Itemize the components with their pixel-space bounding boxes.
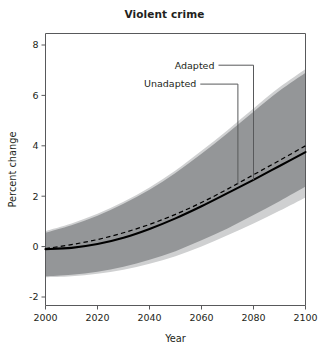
x-tick-label: 2000 — [33, 312, 57, 323]
chart-canvas: -202468200020202040206020802100 AdaptedU… — [0, 0, 329, 353]
y-tick-label: 6 — [32, 90, 38, 101]
annotation-label-unadapted: Unadapted — [144, 78, 196, 89]
y-tick-label: 4 — [32, 140, 38, 151]
y-tick-label: 2 — [32, 191, 38, 202]
y-tick-label: -2 — [29, 291, 38, 302]
x-tick-label: 2100 — [293, 312, 317, 323]
y-tick-label: 0 — [32, 241, 38, 252]
annotation-label-adapted: Adapted — [175, 60, 215, 71]
chart-figure: Violent crime -2024682000202020402060208… — [0, 0, 329, 353]
y-tick-label: 8 — [32, 39, 38, 50]
x-tick-label: 2020 — [85, 312, 109, 323]
x-tick-label: 2080 — [241, 312, 265, 323]
x-tick-label: 2040 — [137, 312, 161, 323]
x-axis-title: Year — [164, 333, 187, 344]
y-axis-title: Percent change — [7, 131, 18, 207]
series-annotations: AdaptedUnadapted — [144, 60, 214, 90]
x-tick-label: 2060 — [189, 312, 213, 323]
